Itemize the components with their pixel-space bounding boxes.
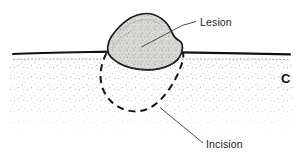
cross-section-illustration: Lesion Incision C — [0, 0, 304, 162]
incision-label: Incision — [206, 138, 243, 150]
lesion-label: Lesion — [200, 16, 232, 28]
panel-letter-label: C — [281, 71, 291, 86]
figure-container: Lesion Incision C — [0, 0, 304, 162]
